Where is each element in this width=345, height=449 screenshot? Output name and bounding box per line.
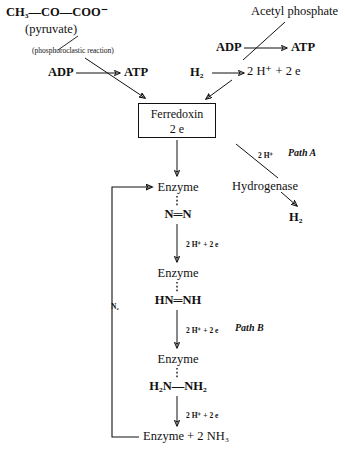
ferredoxin-label: Ferredoxin (139, 107, 215, 122)
pyruvate-formula: CH₃—CO—COO⁻ (6, 6, 108, 19)
path-a-label: Path A (288, 148, 316, 159)
enzyme-2: Enzyme (158, 267, 199, 280)
reduction-step-1: 2 H⁺ + 2 e (186, 241, 218, 249)
h2-product: H₂ (289, 211, 302, 224)
ferredoxin-to-hydrogenase-diagonal (236, 144, 278, 178)
reduction-step-3: 2 H⁺ + 2 e (186, 412, 218, 420)
hydrogenase: Hydrogenase (232, 180, 298, 193)
substrate-diimide: HN═NH (155, 294, 201, 307)
atp-right: ATP (291, 41, 315, 54)
enzyme-1: Enzyme (158, 181, 199, 194)
substrate-dinitrogen: N═N (165, 208, 192, 221)
phosphoroclastic-reaction-label: (phosphoroclastic reaction) (32, 47, 114, 55)
hydrogenase-to-h2-arrow (281, 192, 297, 206)
ferredoxin-electrons: 2 e (139, 122, 215, 137)
adp-left: ADP (48, 66, 74, 79)
ferredoxin-box: Ferredoxin 2 e (138, 103, 216, 138)
n2-recycle-label: N₂ (111, 303, 119, 311)
reduction-step-2: 2 H⁺ + 2 e (186, 327, 218, 335)
final-product: Enzyme + 2 NH₃ (143, 430, 229, 443)
protons-electrons: 2 H⁺ + 2 e (247, 65, 301, 78)
acetyl-phosphate-diagonal (243, 22, 285, 60)
n2-recycle-loop (112, 187, 152, 437)
pathway-diagram: CH₃—CO—COO⁻ (pyruvate) (phosphoroclastic… (0, 0, 345, 449)
adp-right: ADP (216, 41, 242, 54)
substrate-hydrazine: H₂N—NH₂ (149, 380, 207, 393)
acetyl-phosphate: Acetyl phosphate (251, 5, 338, 18)
enzyme-3: Enzyme (158, 353, 199, 366)
path-a-protons: 2 H⁺ (258, 152, 273, 160)
h2-source: H₂ (190, 66, 203, 79)
path-b-label: Path B (235, 323, 264, 334)
h2-to-ferredoxin-arrow (206, 80, 232, 99)
atp-left: ATP (124, 66, 148, 79)
pyruvate-name: (pyruvate) (25, 23, 77, 36)
